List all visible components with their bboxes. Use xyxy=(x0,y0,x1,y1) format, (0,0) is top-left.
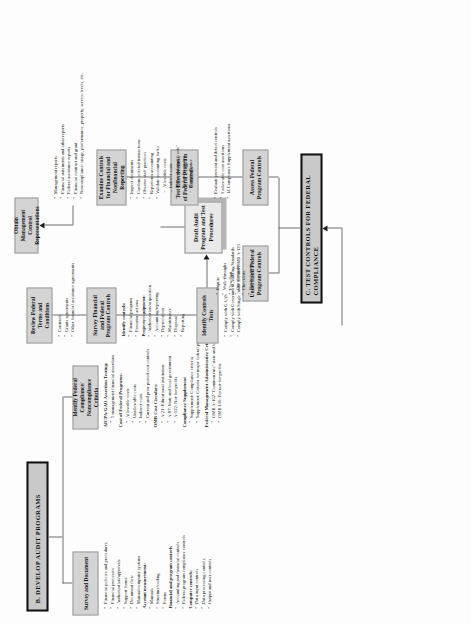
node-review-terms-title: Review Federal Terms and Conditions xyxy=(29,291,50,339)
node-assess-federal-program-controls[interactable]: Assess Federal Program Controls xyxy=(242,149,268,205)
connector-tests-to-draft xyxy=(206,259,207,287)
section-head: Compliance Supplement xyxy=(181,377,186,427)
list-item: Manuals xyxy=(148,535,155,608)
list-item: Personnel actions xyxy=(133,249,140,336)
list-item: Checklists xyxy=(240,219,247,294)
node-identify-federal-compliance-criteria[interactable]: Identify Federal Compliance/ Noncomplian… xyxy=(72,365,98,429)
list-item: Direct and kind "costs" xyxy=(174,103,181,192)
list-group-head: Financial and program controls xyxy=(167,535,174,608)
list-item: Indirect costs xyxy=(167,103,174,192)
list-item: Data processing controls xyxy=(200,535,207,608)
list-item: Inquire xyxy=(214,219,221,294)
node-survey-and-document[interactable]: Survey and Document xyxy=(72,551,98,615)
connector-b-to-identify xyxy=(62,396,72,397)
list-item: Federal program compliance controls xyxy=(180,535,187,608)
list-item: Financial contract and grant xyxy=(72,93,79,198)
section-head: Cost of Federal Programs: xyxy=(117,373,122,427)
list-item: Financial statements and other reports xyxy=(59,93,66,198)
arrow-into-phase-c xyxy=(322,225,327,231)
connector-terms-spine xyxy=(52,314,86,315)
connector-b-to-c-v xyxy=(160,226,184,227)
list-item: Authorization/approvals xyxy=(115,535,122,608)
node-identify-compliance-title: Identify Federal Compliance/ Noncomplian… xyxy=(71,369,99,425)
list-item: 9 allowable cost assertions xyxy=(219,107,226,198)
list-item: Disposal xyxy=(172,249,179,336)
arrow-to-draft-audit-program xyxy=(203,254,209,259)
list-item: Validate accounting for/to xyxy=(154,103,161,198)
list-item: Observe staff practices xyxy=(141,103,148,198)
list-item: Contracts xyxy=(56,251,63,336)
connector-b-bus xyxy=(62,397,63,583)
phase-c-label: C. TEST CONTROLS FOR FEDERAL COMPLIANCE xyxy=(303,158,319,295)
list-group-head: Property/equipment: xyxy=(140,249,147,336)
assess-controls-bullets: Evaluate prevent and detect controls 9 a… xyxy=(212,107,232,203)
connector-c-down xyxy=(278,227,300,228)
list-item: Structure/coding xyxy=(154,535,161,608)
section-head: OMB Cost Circulars: xyxy=(152,383,157,427)
node-identify-controls-tests-title: Identify Controls Tests xyxy=(200,291,214,339)
connector-c-bus xyxy=(278,177,279,273)
list-item: Forms xyxy=(161,535,168,608)
list-item: Manual/computer systems xyxy=(135,535,142,608)
list-item: Management reports xyxy=(52,93,59,198)
list-item: Data input controls xyxy=(193,535,200,608)
list-item: Allowable costs xyxy=(161,103,168,192)
node-examine-controls-reporting[interactable]: Examine Controls for Financial and Nonfi… xyxy=(96,149,126,205)
list-item: Grants agreements xyxy=(63,251,70,336)
flowchart-canvas: B. DEVELOP AUDIT PROGRAMS Survey and Doc… xyxy=(0,0,471,625)
connector-c-right-spine xyxy=(126,176,170,177)
list-item: Federal programs xyxy=(180,103,187,192)
list-item: Questionnaire xyxy=(234,219,241,294)
node-survey-and-document-title: Survey and Document xyxy=(82,556,89,609)
node-obtain-rep-title: Obtain Management Control Representation… xyxy=(12,201,40,249)
list-item: Walk-throughs xyxy=(221,219,228,294)
list-item: Federal assistance reports xyxy=(65,93,72,198)
node-examine-controls-title: Examine Controls for Financial and Nonfi… xyxy=(97,153,125,201)
list-group-head: Account measurement: xyxy=(141,535,148,608)
list-item: Evaluate prevent and detect controls xyxy=(212,107,219,198)
list-item: Financial/program xyxy=(127,249,134,336)
phase-b-label: B. DEVELOP AUDIT PROGRAMS xyxy=(33,494,41,603)
connector-c-to-understand xyxy=(268,272,278,273)
connector-to-obtain-rep-v xyxy=(44,224,72,225)
list-item: Accounting and financial controls xyxy=(174,535,181,608)
survey-financial-bullets: Identify controls: Financial/program Per… xyxy=(120,249,185,341)
list-item: Flowchart xyxy=(227,219,234,294)
list-item: Supplement: Compliance criteria xyxy=(188,315,195,422)
list-item: Support forms xyxy=(122,535,129,608)
list-item: Noncompliance: usage, performance, prope… xyxy=(78,93,85,198)
connector-to-obtain-rep xyxy=(72,205,73,225)
list-item: 14 Compliance Supplement assertions xyxy=(225,107,232,198)
list-item: Inspect documents xyxy=(128,103,135,198)
diagram-page: B. DEVELOP AUDIT PROGRAMS Survey and Doc… xyxy=(0,0,471,625)
phase-c-test-controls-federal-compliance[interactable]: C. TEST CONTROLS FOR FEDERAL COMPLIANCE xyxy=(300,153,322,303)
list-group-head: Identify controls: xyxy=(120,249,127,336)
node-obtain-management-control-representations[interactable]: Obtain Management Control Representation… xyxy=(14,197,38,253)
node-survey-financial-federal-controls[interactable]: Survey Financial and Federal Program Con… xyxy=(86,287,116,343)
node-assess-controls-title: Assess Federal Program Controls xyxy=(248,153,262,201)
node-draft-audit-program-title: Draft Audit Program and Test Procedures xyxy=(192,202,215,252)
understand-controls-bullets: Inquire Walk-throughs Flowchart Question… xyxy=(214,219,253,299)
connector-b-down xyxy=(48,536,62,537)
connector-survey-to-tests xyxy=(116,314,196,315)
node-survey-financial-title: Survey Financial and Federal Program Con… xyxy=(91,291,112,339)
phase-b-develop-audit-programs[interactable]: B. DEVELOP AUDIT PROGRAMS xyxy=(26,461,48,611)
section-head: AICPA/GAO Assertion Testing: xyxy=(102,362,107,427)
list-group-head: Computer controls: xyxy=(187,535,194,608)
list-item: Maintenance xyxy=(166,249,173,336)
list-item: Noncompliance xyxy=(187,103,194,192)
connector-into-phase-c xyxy=(327,227,341,228)
list-item: Controls memo xyxy=(247,219,254,294)
node-review-federal-terms[interactable]: Review Federal Terms and Conditions xyxy=(26,287,52,343)
list-item: Authorization/acquisition xyxy=(146,249,153,336)
list-item: Financial policies and procedures xyxy=(102,535,109,608)
list-item: Accounting/reporting xyxy=(153,249,160,336)
list-item: Confirm selected transactions xyxy=(135,103,142,198)
connector-c-to-assess xyxy=(268,176,278,177)
list-item: Financial processes xyxy=(109,535,116,608)
connector-b-to-survey xyxy=(62,582,72,583)
review-terms-bullets: Contracts Grants agreements Other financ… xyxy=(56,251,76,341)
list-item: Reporting xyxy=(179,249,186,336)
examine-controls-bullets: Management reports Financial statements … xyxy=(52,93,85,203)
connector-c-right-spine-2 xyxy=(198,176,242,177)
